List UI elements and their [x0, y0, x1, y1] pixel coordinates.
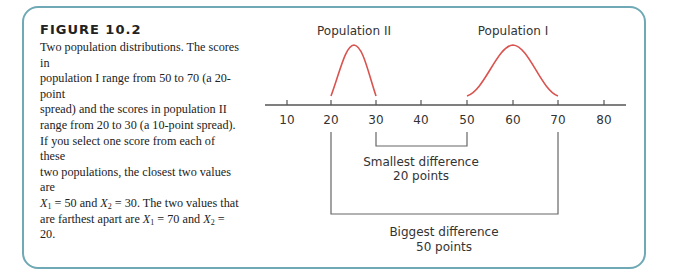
distribution-diagram: Population II Population I 10 20 30 40 5…	[0, 0, 676, 278]
smallest-difference-value: 20 points	[393, 169, 449, 183]
tick-label: 80	[596, 113, 611, 127]
axis-ticks	[287, 100, 604, 105]
tick-label: 20	[323, 113, 338, 127]
smallest-difference-bracket	[376, 132, 467, 146]
population-1-label: Population I	[478, 24, 548, 38]
tick-label: 40	[413, 113, 428, 127]
axis-tick-labels: 10 20 30 40 50 60 70 80	[279, 113, 611, 127]
population-2-label: Population II	[317, 24, 391, 38]
population-2-curve	[331, 45, 376, 96]
tick-label: 30	[368, 113, 383, 127]
population-1-curve	[467, 45, 558, 96]
biggest-difference-value: 50 points	[416, 240, 472, 254]
tick-label: 70	[550, 113, 565, 127]
smallest-difference-label: Smallest difference	[363, 155, 479, 169]
tick-label: 60	[505, 113, 520, 127]
tick-label: 50	[459, 113, 474, 127]
tick-label: 10	[279, 113, 294, 127]
biggest-difference-label: Biggest difference	[389, 225, 498, 239]
